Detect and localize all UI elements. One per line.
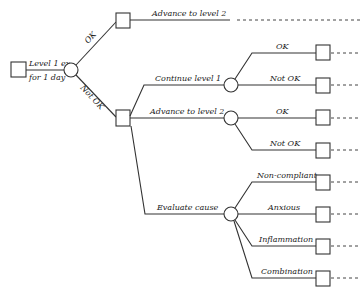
- continue-not-ok-terminal: [316, 78, 330, 93]
- anxious-terminal: [316, 207, 330, 222]
- decision-tree-diagram: Level 1 ex. for 1 day OK Advance to leve…: [0, 0, 360, 296]
- inflammation-label: Inflammation: [258, 235, 313, 244]
- advance-ok-terminal: [316, 110, 330, 125]
- continue-not-ok-label: Not OK: [269, 74, 301, 83]
- non-compliant-label: Non-compliant: [256, 171, 318, 180]
- advance-option-label: Advance to level 2: [149, 107, 224, 116]
- advance-not-ok-label: Not OK: [269, 139, 301, 148]
- advance-not-ok-terminal: [316, 143, 330, 158]
- evaluate-cause-label: Evaluate cause: [156, 203, 219, 212]
- root-label-line2: for 1 day: [28, 73, 66, 82]
- evaluate-cause-chance-node: [224, 207, 238, 221]
- combination-terminal: [316, 271, 330, 286]
- ok-branch-line: [76, 22, 116, 65]
- root-chance-node: [64, 63, 78, 77]
- continue-ok-terminal: [316, 45, 330, 60]
- not-ok-branch-label: Not OK: [78, 82, 106, 112]
- advance-ok-label: OK: [276, 107, 290, 116]
- combination-label: Combination: [261, 267, 313, 276]
- continue-level1-chance-node: [224, 78, 238, 92]
- inflammation-terminal: [316, 239, 330, 254]
- continue-ok-label: OK: [276, 42, 290, 51]
- anxious-label: Anxious: [267, 203, 300, 212]
- root-decision-node: [11, 62, 26, 77]
- advance-option-chance-node: [224, 111, 238, 125]
- non-compliant-terminal: [316, 175, 330, 190]
- continue-level1-label: Continue level 1: [155, 74, 221, 83]
- advance-level2-label: Advance to level 2: [151, 9, 226, 18]
- evaluate-cause-line: [131, 126, 224, 214]
- not-ok-decision-node: [116, 110, 130, 126]
- ok-decision-node: [116, 13, 130, 28]
